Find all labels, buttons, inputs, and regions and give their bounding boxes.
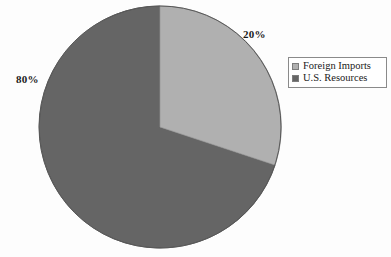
pie-chart-canvas — [0, 0, 391, 257]
pie-chart-figure: 20% 80% Foreign Imports U.S. Resources — [0, 0, 391, 257]
chart-legend: Foreign Imports U.S. Resources — [288, 57, 387, 88]
legend-label-foreign-imports: Foreign Imports — [303, 60, 371, 72]
slice-label-foreign-imports: 20% — [243, 28, 266, 40]
legend-swatch-icon-foreign-imports — [292, 63, 299, 70]
legend-item-us-resources: U.S. Resources — [292, 72, 383, 84]
legend-swatch-icon-us-resources — [292, 75, 299, 82]
legend-item-foreign-imports: Foreign Imports — [292, 60, 383, 72]
legend-label-us-resources: U.S. Resources — [303, 72, 367, 84]
pie-chart-svg — [0, 0, 391, 257]
slice-label-us-resources: 80% — [16, 73, 39, 85]
